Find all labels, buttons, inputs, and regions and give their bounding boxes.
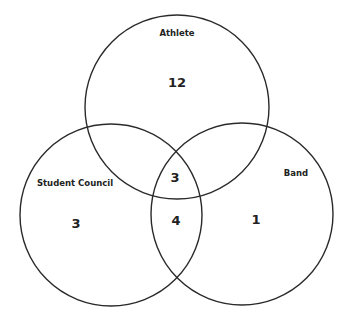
venn-diagram: Athlete Student Council Band 12 3 1 3 4	[0, 0, 348, 329]
band-label: Band	[284, 168, 308, 178]
student-council-band-count: 4	[171, 213, 180, 228]
band-only-count: 1	[251, 212, 260, 227]
student-council-only-count: 3	[71, 216, 80, 231]
athlete-label: Athlete	[159, 28, 194, 38]
athlete-only-count: 12	[168, 75, 186, 90]
all-three-count: 3	[170, 170, 179, 185]
student-council-label: Student Council	[37, 178, 113, 188]
